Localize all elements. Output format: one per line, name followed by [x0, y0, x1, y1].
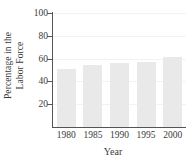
- bar: [57, 69, 76, 127]
- y-axis-tick-mark: [47, 13, 53, 14]
- y-axis-tick-mark: [47, 59, 53, 60]
- y-axis-tick-mark: [47, 81, 53, 82]
- bar: [163, 57, 182, 127]
- x-axis-tick-label: 1995: [137, 129, 156, 141]
- x-axis-line: [52, 127, 186, 128]
- bar: [137, 62, 156, 127]
- y-axis-tick-labels: 20406080100: [26, 0, 48, 166]
- y-axis-tick-mark: [47, 36, 53, 37]
- x-axis-tick-labels: 19801985199019952000: [53, 129, 186, 143]
- x-axis-tick-label: 1985: [83, 129, 102, 141]
- x-axis-tick-label: 1980: [57, 129, 76, 141]
- gridline: [53, 36, 186, 37]
- y-axis-tick-mark: [47, 104, 53, 105]
- bar-chart-figure: Percentage in the Labor Force 2040608010…: [0, 0, 186, 166]
- y-axis-tick-label: 20: [26, 99, 48, 109]
- y-axis-title-line-1: Percentage in the: [4, 31, 16, 98]
- bar: [110, 63, 129, 127]
- y-axis-tick-label: 60: [26, 54, 48, 64]
- x-axis-tick-label: 1990: [110, 129, 129, 141]
- x-axis-tick-label: 2000: [163, 129, 182, 141]
- x-axis-title: Year: [53, 146, 173, 158]
- y-axis-tick-label: 40: [26, 76, 48, 86]
- y-axis-title-line-2: Labor Force: [15, 31, 27, 98]
- y-axis-tick-label: 80: [26, 31, 48, 41]
- y-axis-tick-label: 100: [26, 8, 48, 18]
- gridline: [53, 13, 186, 14]
- bar: [83, 65, 102, 127]
- plot-area: [53, 13, 186, 127]
